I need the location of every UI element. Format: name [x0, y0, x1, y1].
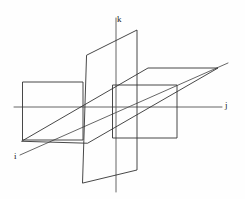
- j-axis-label: j: [225, 101, 228, 110]
- i-axis-label: i: [14, 152, 17, 161]
- orthogonal-planes-drawing: [0, 0, 245, 199]
- k-axis-label: k: [117, 15, 122, 24]
- canvas-background: [0, 0, 245, 199]
- figure-container: k j i: [0, 0, 245, 199]
